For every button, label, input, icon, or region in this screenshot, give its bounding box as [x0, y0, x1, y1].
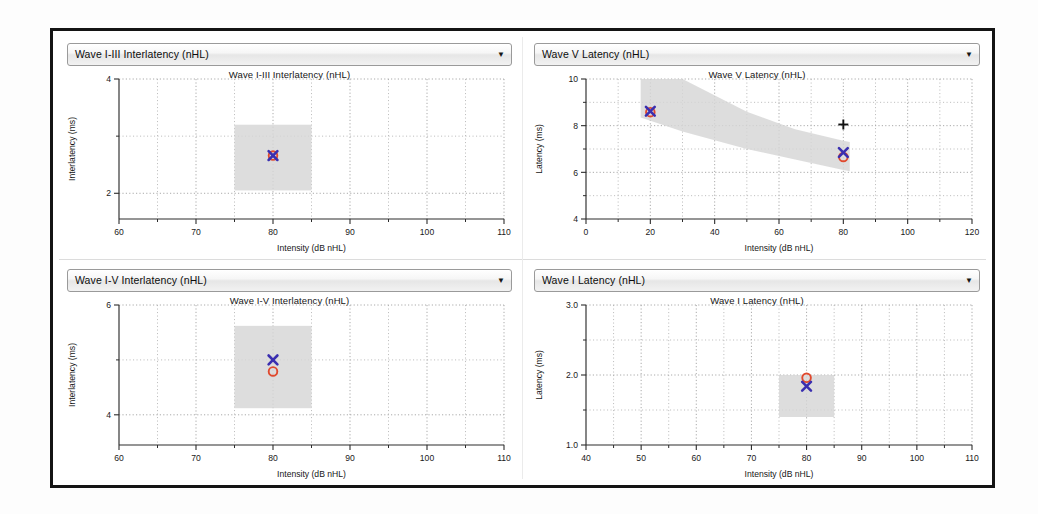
x-tick-label: 110 [965, 453, 979, 463]
y-tick-label: 6 [106, 300, 111, 310]
panel-bottom-right: Wave I Latency (nHL) ▼ Wave I Latency (n… [524, 261, 990, 483]
x-axis-label: Intensity (dB nHL) [277, 243, 346, 253]
x-tick-label: 90 [345, 227, 355, 237]
chevron-down-icon[interactable]: ▼ [959, 277, 979, 285]
y-tick-label: 4 [573, 214, 578, 224]
x-tick-label: 0 [584, 227, 589, 237]
x-tick-label: 70 [747, 453, 757, 463]
x-tick-label: 80 [802, 453, 812, 463]
x-tick-label: 40 [581, 453, 591, 463]
waveform-selector-label-bottom-right: Wave I Latency (nHL) [535, 275, 959, 286]
y-axis-label: Latency (ms) [534, 124, 544, 174]
chevron-down-icon[interactable]: ▼ [959, 51, 979, 59]
x-tick-label: 50 [636, 453, 646, 463]
waveform-selector-label-bottom-left: Wave I-V Interlatency (nHL) [68, 275, 491, 286]
panel-grid: Wave I-III Interlatency (nHL) ▼ Wave I-I… [53, 31, 992, 485]
chart-wrap-bottom-left: Wave I-V Interlatency (nHL) 607080901001… [57, 291, 522, 483]
x-tick-label: 60 [114, 453, 124, 463]
x-tick-label: 90 [345, 453, 355, 463]
column-divider [522, 37, 523, 479]
x-tick-label: 70 [191, 227, 201, 237]
x-tick-label: 110 [497, 453, 511, 463]
y-tick-label: 2.0 [566, 370, 578, 380]
chart-wrap-top-left: Wave I-III Interlatency (nHL) 6070809010… [57, 65, 522, 257]
x-tick-label: 90 [857, 453, 867, 463]
x-axis-label: Intensity (dB nHL) [277, 469, 346, 479]
waveform-selector-top-left[interactable]: Wave I-III Interlatency (nHL) ▼ [67, 43, 512, 66]
x-tick-label: 70 [191, 453, 201, 463]
y-tick-label: 1.0 [566, 440, 578, 450]
x-tick-label: 60 [692, 453, 702, 463]
chart-top-left: 6070809010011024Intensity (dB nHL)Interl… [57, 65, 522, 257]
y-tick-label: 8 [573, 121, 578, 131]
x-tick-label: 100 [420, 227, 435, 237]
panel-top-right: Wave V Latency (nHL) ▼ Wave V Latency (n… [524, 35, 990, 257]
chart-bottom-right: 4050607080901001101.02.03.0Intensity (dB… [524, 291, 990, 483]
chevron-down-icon[interactable]: ▼ [491, 51, 511, 59]
y-tick-label: 6 [573, 168, 578, 178]
x-tick-label: 100 [420, 453, 435, 463]
waveform-selector-label-top-right: Wave V Latency (nHL) [535, 49, 959, 60]
y-axis-label: Interlatency (ms) [67, 117, 77, 181]
normative-band [235, 125, 312, 191]
panel-bottom-left: Wave I-V Interlatency (nHL) ▼ Wave I-V I… [57, 261, 522, 483]
x-tick-label: 80 [839, 227, 849, 237]
waveform-selector-top-right[interactable]: Wave V Latency (nHL) ▼ [534, 43, 980, 66]
chart-wrap-bottom-right: Wave I Latency (nHL) 4050607080901001101… [524, 291, 990, 483]
x-tick-label: 60 [774, 227, 784, 237]
y-tick-label: 10 [568, 74, 578, 84]
x-tick-label: 80 [268, 453, 278, 463]
y-tick-label: 4 [106, 74, 111, 84]
normative-band [641, 79, 850, 171]
x-tick-label: 100 [910, 453, 925, 463]
x-tick-label: 110 [497, 227, 511, 237]
x-tick-label: 60 [114, 227, 124, 237]
x-tick-label: 100 [900, 227, 915, 237]
marker-plus [838, 120, 848, 130]
document-frame: Wave I-III Interlatency (nHL) ▼ Wave I-I… [50, 28, 995, 488]
x-tick-label: 120 [965, 227, 980, 237]
x-tick-label: 20 [646, 227, 656, 237]
screen-root: Wave I-III Interlatency (nHL) ▼ Wave I-I… [0, 0, 1038, 514]
y-tick-label: 3.0 [566, 300, 578, 310]
y-tick-label: 2 [106, 188, 111, 198]
chart-top-right: 02040608010012046810Intensity (dB nHL)La… [524, 65, 990, 257]
waveform-selector-label-top-left: Wave I-III Interlatency (nHL) [68, 49, 491, 60]
panel-top-left: Wave I-III Interlatency (nHL) ▼ Wave I-I… [57, 35, 522, 257]
chart-bottom-left: 6070809010011046Intensity (dB nHL)Interl… [57, 291, 522, 483]
y-axis-label: Interlatency (ms) [67, 343, 77, 407]
waveform-selector-bottom-left[interactable]: Wave I-V Interlatency (nHL) ▼ [67, 269, 512, 292]
x-axis-label: Intensity (dB nHL) [745, 243, 814, 253]
x-tick-label: 80 [268, 227, 278, 237]
x-tick-label: 40 [710, 227, 720, 237]
chart-wrap-top-right: Wave V Latency (nHL) 0204060801001204681… [524, 65, 990, 257]
x-axis-label: Intensity (dB nHL) [745, 469, 814, 479]
chevron-down-icon[interactable]: ▼ [491, 277, 511, 285]
y-axis-label: Latency (ms) [534, 350, 544, 400]
y-tick-label: 4 [106, 410, 111, 420]
waveform-selector-bottom-right[interactable]: Wave I Latency (nHL) ▼ [534, 269, 980, 292]
